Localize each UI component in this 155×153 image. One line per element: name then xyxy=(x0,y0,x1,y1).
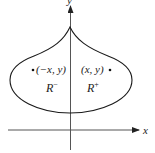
symmetric-region-diagram: x y (−x, y) (x, y) R− R+ xyxy=(0,0,155,153)
region-right-sup: + xyxy=(94,80,99,89)
x-axis-label: x xyxy=(142,124,148,136)
region-right-label: R+ xyxy=(86,80,99,95)
point-left-label: (−x, y) xyxy=(36,63,66,76)
point-left-dot xyxy=(32,69,35,72)
point-right-dot xyxy=(109,69,112,72)
point-right-label: (x, y) xyxy=(81,63,104,76)
region-left-label: R− xyxy=(45,80,58,95)
region-left-sup: − xyxy=(53,80,58,89)
y-axis-label: y xyxy=(66,0,72,6)
